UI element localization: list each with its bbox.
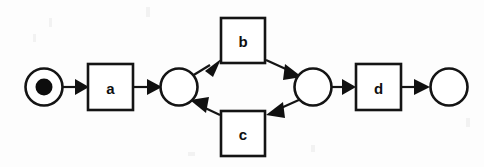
arc-start-to-a	[63, 79, 89, 95]
arc-c-to-split	[190, 97, 220, 115]
arc-a-to-split	[133, 79, 162, 95]
arc-join-to-c-line	[281, 99, 301, 108]
end-place-circle[interactable]	[431, 69, 468, 106]
transition-a-label: a	[106, 80, 115, 97]
arc-join-to-c-arrowhead	[266, 102, 285, 118]
transition-b-label: b	[238, 33, 247, 50]
arc-join-to-d-arrowhead	[342, 79, 356, 95]
transition-b[interactable]: b	[221, 18, 265, 63]
join-place[interactable]	[295, 69, 332, 106]
transition-c-label: c	[239, 126, 247, 143]
arc-d-to-end	[401, 79, 430, 95]
start-place[interactable]	[26, 69, 63, 106]
petri-net-diagram: a b c d	[0, 0, 484, 167]
arc-d-to-end-arrowhead	[414, 79, 430, 95]
transition-d-label: d	[374, 80, 383, 97]
transition-d[interactable]: d	[356, 64, 401, 110]
arc-join-to-c	[266, 99, 301, 118]
transition-a[interactable]: a	[88, 64, 133, 110]
transition-c[interactable]: c	[221, 111, 265, 156]
split-place[interactable]	[161, 69, 198, 106]
start-place-token	[36, 79, 53, 96]
petri-net-canvas: a b c d	[0, 0, 484, 167]
join-place-circle[interactable]	[295, 69, 332, 106]
arc-split-to-b	[192, 59, 221, 77]
split-place-circle[interactable]	[161, 69, 198, 106]
arc-join-to-d	[332, 79, 356, 95]
end-place[interactable]	[431, 69, 468, 106]
arc-split-to-b-arrowhead	[205, 59, 221, 77]
